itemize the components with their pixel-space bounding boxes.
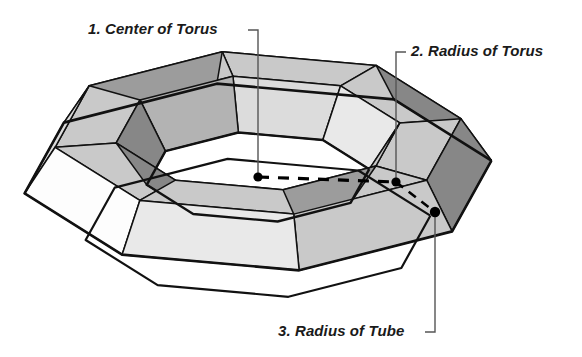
callout-label-radius-of-torus: 2. Radius of Torus bbox=[411, 42, 543, 59]
marker-dot-radius-of-tube bbox=[430, 207, 440, 217]
callout-label-center-of-torus: 1. Center of Torus bbox=[88, 20, 218, 37]
marker-dot-radius-of-torus bbox=[391, 177, 400, 186]
marker-dot-center-of-torus bbox=[253, 172, 262, 181]
callout-label-radius-of-tube: 3. Radius of Tube bbox=[278, 322, 404, 339]
